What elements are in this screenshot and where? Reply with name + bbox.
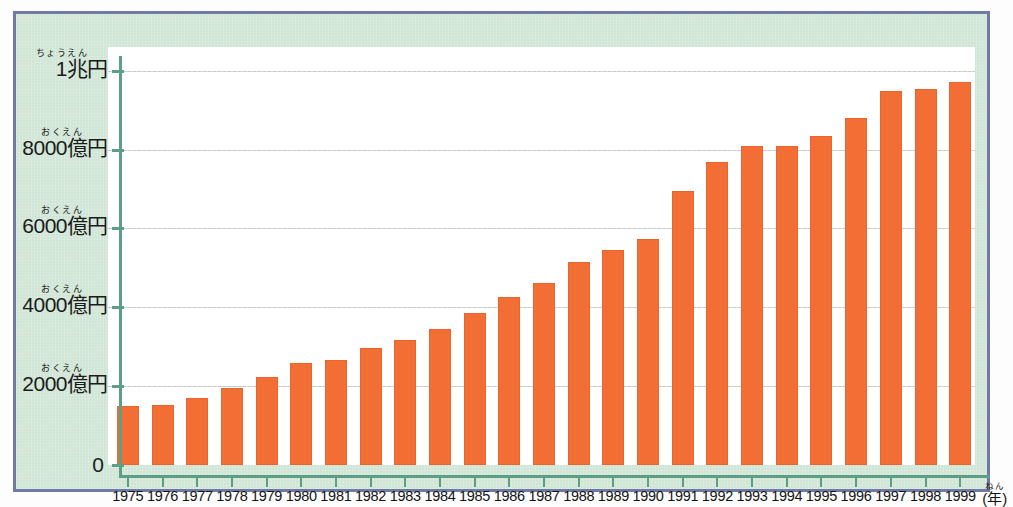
bar	[256, 377, 278, 465]
x-axis-tick-label: 1988	[560, 488, 598, 504]
x-tick-mark	[751, 478, 753, 487]
x-tick-mark	[959, 478, 961, 487]
x-tick-mark	[925, 478, 927, 487]
x-axis-tick-label: 1990	[629, 488, 667, 504]
x-tick-mark	[716, 478, 718, 487]
y-tick-text: 4000億円	[16, 294, 108, 315]
x-axis-tick-label: 1989	[594, 488, 632, 504]
x-axis-tick-label: 1991	[664, 488, 702, 504]
x-tick-mark	[370, 478, 372, 487]
x-axis-tick-label: 1980	[282, 488, 320, 504]
x-axis-tick-label: 1979	[248, 488, 286, 504]
x-axis-tick-label: 1983	[386, 488, 424, 504]
bar	[429, 329, 451, 465]
chart-figure: 0おくえん2000億円おくえん4000億円おくえん6000億円おくえん8000億…	[0, 0, 1013, 507]
x-tick-mark	[162, 478, 164, 487]
y-axis-tick-label: おくえん6000億円	[16, 206, 108, 236]
x-axis-tick-label: 1993	[733, 488, 771, 504]
bar	[568, 262, 590, 465]
bar	[498, 297, 520, 465]
y-tick-mark	[112, 306, 124, 309]
x-axis-line	[119, 475, 990, 478]
y-axis-tick-label: おくえん8000億円	[16, 128, 108, 158]
bar	[776, 146, 798, 465]
x-tick-mark	[682, 478, 684, 487]
bar	[360, 348, 382, 465]
bar	[637, 239, 659, 465]
plot-area	[108, 47, 975, 465]
x-axis-tick-label: 1987	[525, 488, 563, 504]
x-axis-tick-label: 1982	[352, 488, 390, 504]
x-tick-mark	[231, 478, 233, 487]
bar	[464, 313, 486, 465]
x-axis-tick-label: 1985	[456, 488, 494, 504]
x-axis-tick-label: 1995	[802, 488, 840, 504]
bar	[949, 82, 971, 465]
x-axis-tick-label: 1976	[144, 488, 182, 504]
x-axis-tick-label: 1981	[317, 488, 355, 504]
x-axis-tick-label: 1998	[907, 488, 945, 504]
x-axis-tick-label: 1978	[213, 488, 251, 504]
x-tick-mark	[127, 478, 129, 487]
x-tick-mark	[786, 478, 788, 487]
bar	[186, 398, 208, 465]
bar	[221, 388, 243, 465]
y-axis-tick-label: おくえん4000億円	[16, 285, 108, 315]
y-tick-text: 8000億円	[16, 137, 108, 158]
x-axis-tick-label: 1994	[768, 488, 806, 504]
x-axis-tick-label: 1975	[109, 488, 147, 504]
x-tick-mark	[508, 478, 510, 487]
x-axis-tick-label: 1986	[490, 488, 528, 504]
bar	[394, 340, 416, 465]
y-axis-tick-label: おくえん2000億円	[16, 364, 108, 394]
x-axis-tick-label: 1997	[872, 488, 910, 504]
chart-panel: 0おくえん2000億円おくえん4000億円おくえん6000億円おくえん8000億…	[13, 11, 990, 492]
y-tick-mark	[112, 385, 124, 388]
y-axis-line	[119, 56, 122, 478]
x-axis-tick-label: 1996	[837, 488, 875, 504]
x-tick-mark	[820, 478, 822, 487]
x-tick-mark	[335, 478, 337, 487]
x-axis-tick-label: 1992	[698, 488, 736, 504]
x-tick-mark	[196, 478, 198, 487]
y-tick-mark	[112, 149, 124, 152]
bar	[810, 136, 832, 465]
bar	[845, 118, 867, 465]
x-tick-mark	[439, 478, 441, 487]
x-tick-mark	[612, 478, 614, 487]
x-axis-unit-label: ねん (年)	[982, 482, 1007, 506]
x-axis-unit-text: (年)	[982, 491, 1007, 507]
bar	[152, 405, 174, 465]
x-tick-mark	[578, 478, 580, 487]
y-tick-mark	[112, 464, 124, 467]
x-tick-mark	[890, 478, 892, 487]
x-tick-mark	[300, 478, 302, 487]
y-axis-tick-label: 0	[16, 454, 104, 475]
gridline	[108, 71, 975, 72]
bar	[706, 162, 728, 465]
bar	[672, 191, 694, 466]
y-tick-mark	[112, 227, 124, 230]
bar	[915, 89, 937, 465]
x-tick-mark	[404, 478, 406, 487]
y-tick-text: 2000億円	[16, 373, 108, 394]
bar	[533, 283, 555, 465]
bar	[880, 91, 902, 465]
y-tick-text: 6000億円	[16, 215, 108, 236]
x-tick-mark	[543, 478, 545, 487]
x-axis-tick-label: 1999	[941, 488, 979, 504]
y-tick-mark	[112, 70, 124, 73]
bar	[602, 250, 624, 465]
x-tick-mark	[647, 478, 649, 487]
bar	[290, 363, 312, 465]
y-axis-tick-label: ちょうえん1兆円	[16, 49, 108, 79]
x-tick-mark	[266, 478, 268, 487]
x-axis-tick-label: 1984	[421, 488, 459, 504]
x-axis-tick-label: 1977	[178, 488, 216, 504]
y-tick-text: 1兆円	[16, 58, 108, 79]
bar	[741, 146, 763, 465]
x-tick-mark	[474, 478, 476, 487]
bar	[325, 360, 347, 465]
x-tick-mark	[855, 478, 857, 487]
